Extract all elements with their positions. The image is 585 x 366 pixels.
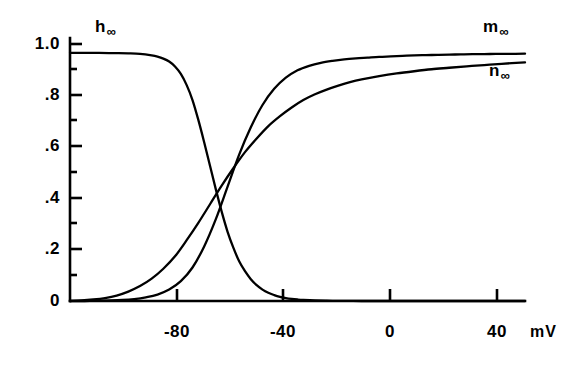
plot-canvas (0, 0, 585, 366)
x-tick-label-0: 0 (363, 323, 417, 340)
x-tick-label--80: -80 (150, 323, 204, 340)
y-tick-label-0.2: .2 (14, 240, 60, 257)
chart-figure: 1.0 .8 .6 .4 .2 0 -80 -40 0 40 mV h∞ m∞ … (0, 0, 585, 366)
x-axis-unit-label: mV (530, 324, 557, 340)
x-axis-ticks (177, 289, 497, 301)
y-tick-label-0: 0 (14, 292, 60, 309)
y-tick-label-1.0: 1.0 (14, 35, 60, 52)
curve-label-m-inf: m∞ (483, 18, 507, 35)
curve-label-m-subscript: ∞ (499, 24, 508, 39)
curve-label-h-symbol: h (95, 17, 105, 36)
curve-h_inf (70, 53, 525, 301)
x-tick-label-40: 40 (470, 323, 524, 340)
curve-n_inf (70, 62, 525, 301)
curve-m_inf (70, 54, 525, 301)
axis-lines (70, 38, 525, 301)
y-tick-label-0.6: .6 (14, 137, 60, 154)
curve-label-h-subscript: ∞ (106, 24, 115, 39)
y-tick-label-0.4: .4 (14, 189, 60, 206)
y-axis-major-ticks (70, 44, 82, 249)
y-tick-label-0.8: .8 (14, 86, 60, 103)
curve-label-n-inf: n∞ (489, 62, 509, 79)
curve-label-n-subscript: ∞ (500, 68, 509, 83)
curve-label-n-symbol: n (489, 61, 499, 80)
x-tick-label--40: -40 (256, 323, 310, 340)
curve-label-h-inf: h∞ (95, 18, 115, 35)
curve-label-m-symbol: m (483, 17, 498, 36)
data-curves (70, 53, 525, 301)
